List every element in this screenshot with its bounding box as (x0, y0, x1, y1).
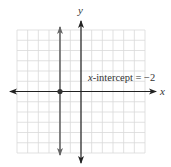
annotation-text: -intercept = −2 (93, 72, 156, 83)
y-axis-label: y (77, 4, 83, 16)
graph-figure: y x x-intercept = −2 (0, 0, 171, 167)
x-intercept-point (57, 89, 62, 94)
x-intercept-annotation: x-intercept = −2 (87, 72, 155, 83)
x-axis-label: x (159, 85, 165, 97)
